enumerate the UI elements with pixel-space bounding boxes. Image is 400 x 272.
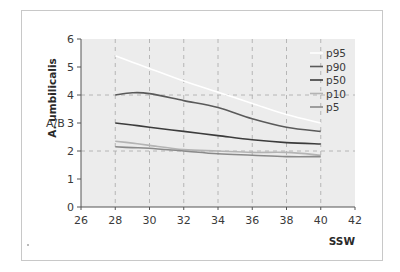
x-tick-label: 30	[143, 214, 157, 227]
legend-label-p10: p10	[326, 88, 346, 100]
legend-label-p95: p95	[326, 47, 346, 59]
x-tick-label: 38	[280, 214, 294, 227]
y-tick-label: 6	[67, 33, 74, 46]
y-axis-subtitle: A/B	[46, 117, 65, 130]
x-tick-label: 40	[314, 214, 328, 227]
x-tick-label: 42	[348, 214, 362, 227]
x-tick-label: 28	[108, 214, 122, 227]
y-tick-label: 4	[67, 89, 74, 102]
y-tick-label: 0	[67, 201, 74, 214]
legend-label-p90: p90	[326, 61, 346, 73]
y-tick-label: 5	[67, 61, 74, 74]
y-tick-label: 3	[67, 117, 74, 130]
y-tick-label: 1	[67, 173, 74, 186]
x-tick-label: 26	[74, 214, 88, 227]
line-chart: p95p90p50p10p5 0123456262830323436384042…	[0, 0, 400, 272]
y-tick-label: 2	[67, 145, 74, 158]
x-tick-label: 32	[177, 214, 191, 227]
legend-label-p50: p50	[326, 74, 346, 86]
x-axis-title: SSW	[329, 235, 356, 247]
x-tick-label: 34	[211, 214, 225, 227]
legend-label-p5: p5	[326, 101, 339, 113]
x-tick-label: 36	[245, 214, 259, 227]
